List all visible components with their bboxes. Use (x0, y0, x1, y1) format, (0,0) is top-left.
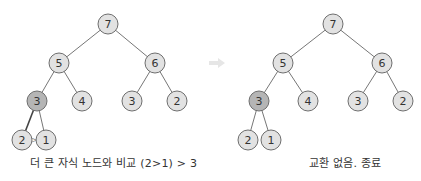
tree-node: 4 (72, 91, 92, 111)
tree-node: 1 (261, 130, 281, 150)
tree-node: 2 (393, 91, 413, 111)
compare-mark: > (31, 136, 38, 145)
svg-text:3: 3 (355, 95, 362, 108)
tree-node: 7 (98, 14, 118, 34)
svg-text:5: 5 (56, 57, 63, 70)
svg-text:3: 3 (129, 95, 136, 108)
svg-text:2: 2 (400, 95, 407, 108)
tree-node: 2 (238, 130, 258, 150)
svg-text:5: 5 (280, 57, 287, 70)
svg-text:4: 4 (305, 95, 312, 108)
tree-node: 4 (298, 91, 318, 111)
svg-text:2: 2 (245, 134, 252, 147)
tree-node: 7 (323, 14, 343, 34)
svg-text:2: 2 (174, 95, 181, 108)
tree-node: 5 (273, 53, 293, 73)
tree-node: 3 (122, 91, 142, 111)
tree-node-current: 3 (249, 91, 269, 111)
svg-text:4: 4 (79, 95, 86, 108)
tree-node: 5 (49, 53, 69, 73)
svg-text:1: 1 (43, 134, 50, 147)
tree-node: 3 (348, 91, 368, 111)
tree-node: 6 (145, 53, 165, 73)
svg-text:7: 7 (330, 18, 337, 31)
right-arrow-icon (209, 58, 225, 68)
svg-text:1: 1 (268, 134, 275, 147)
tree-node: 2 (12, 130, 32, 150)
svg-text:3: 3 (256, 95, 263, 108)
tree-node: 2 (167, 91, 187, 111)
svg-text:3: 3 (34, 95, 41, 108)
svg-text:2: 2 (19, 134, 26, 147)
tree-node: 6 (372, 53, 392, 73)
tree-node-current: 3 (27, 91, 47, 111)
nodes-layer: 756343221>756343221 (12, 14, 413, 150)
svg-text:7: 7 (105, 18, 112, 31)
svg-text:6: 6 (379, 57, 386, 70)
caption-after: 교환 없음. 종료 (309, 154, 381, 170)
svg-text:6: 6 (152, 57, 159, 70)
caption-before: 더 큰 자식 노드와 비교 (2>1) > 3 (30, 154, 197, 170)
tree-node: 1 (36, 130, 56, 150)
edges-layer (22, 24, 403, 140)
